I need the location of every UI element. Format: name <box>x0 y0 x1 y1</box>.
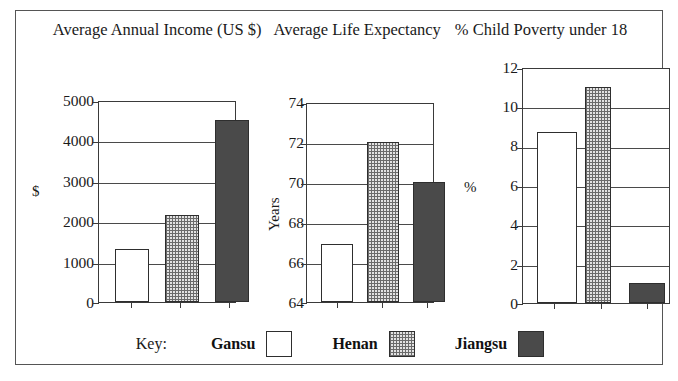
y-tick-10: 10 <box>503 99 519 114</box>
y-tick-4000: 4000 <box>63 133 94 148</box>
legend-entry-henan[interactable]: Henan <box>332 331 414 357</box>
y-tick-4: 4 <box>510 217 518 232</box>
bar-poverty-jiangsu[interactable] <box>629 283 665 303</box>
y-axis-label-income: $ <box>32 183 40 200</box>
legend-key-label: Key: <box>136 335 167 353</box>
legend-entry-gansu[interactable]: Gansu <box>211 331 292 357</box>
tick-64 <box>301 303 307 304</box>
chart-panel-income: $ 5000 4000 3000 2000 1000 0 <box>18 41 246 321</box>
bar-life-gansu[interactable] <box>321 244 353 302</box>
tick-2000 <box>93 223 99 224</box>
tick-74 <box>301 104 307 105</box>
y-tick-8: 8 <box>510 138 518 153</box>
chart-panel-life: Years 74 72 70 68 66 64 <box>244 41 434 321</box>
tick-66 <box>301 264 307 265</box>
plot-area-poverty <box>522 68 670 304</box>
bar-poverty-gansu[interactable] <box>537 132 577 303</box>
y-tick-72: 72 <box>289 135 305 150</box>
y-axis-label-poverty: % <box>464 179 477 196</box>
x-tick-jiangsu <box>229 302 230 308</box>
bar-income-henan[interactable] <box>165 215 199 302</box>
tick-0 <box>93 303 99 304</box>
tick-3000 <box>93 183 99 184</box>
tick-72 <box>301 144 307 145</box>
legend-label-henan: Henan <box>332 335 377 353</box>
bar-poverty-henan[interactable] <box>585 87 611 303</box>
x-tick-henan <box>382 302 383 308</box>
legend-swatch-henan <box>389 331 415 357</box>
x-tick-jiangsu <box>647 303 648 309</box>
legend-label-gansu: Gansu <box>211 335 255 353</box>
chart-title-income: Average Annual Income (US $) <box>53 20 262 40</box>
tick-4 <box>517 226 523 227</box>
charts-strip: $ 5000 4000 3000 2000 1000 0 <box>16 41 664 321</box>
y-tick-labels-poverty: 12 10 8 6 4 2 0 <box>484 41 518 321</box>
tick-2 <box>517 266 523 267</box>
legend-swatch-gansu <box>266 331 292 357</box>
y-tick-66: 66 <box>289 255 305 270</box>
tick-12 <box>517 69 523 70</box>
y-tick-74: 74 <box>289 95 305 110</box>
legend: Key: Gansu Henan Jiangsu <box>16 323 664 365</box>
y-tick-2000: 2000 <box>63 214 94 229</box>
tick-8 <box>517 148 523 149</box>
plot-area-income <box>98 101 236 303</box>
tick-10 <box>517 108 523 109</box>
y-tick-2: 2 <box>510 257 518 272</box>
x-tick-henan <box>601 303 602 309</box>
figure-frame: Average Annual Income (US $) Average Lif… <box>15 10 663 365</box>
y-tick-5000: 5000 <box>63 93 94 108</box>
y-tick-70: 70 <box>289 175 305 190</box>
y-tick-12: 12 <box>503 60 519 75</box>
legend-label-jiangsu: Jiangsu <box>455 335 507 353</box>
legend-swatch-jiangsu <box>518 331 544 357</box>
y-tick-6: 6 <box>510 178 518 193</box>
bar-life-henan[interactable] <box>367 142 399 302</box>
x-tick-henan <box>180 302 181 308</box>
bar-income-gansu[interactable] <box>115 249 149 302</box>
tick-4000 <box>93 142 99 143</box>
x-tick-gansu <box>337 302 338 308</box>
tick-68 <box>301 224 307 225</box>
plot-area-life <box>306 103 434 303</box>
panel-titles-row: Average Annual Income (US $) Average Lif… <box>16 17 664 43</box>
tick-0 <box>517 304 523 305</box>
y-tick-3000: 3000 <box>63 174 94 189</box>
chart-title-poverty: % Child Poverty under 18 <box>455 20 627 40</box>
chart-title-life: Average Life Expectancy <box>273 20 440 40</box>
x-tick-jiangsu <box>427 302 428 308</box>
y-tick-68: 68 <box>289 215 305 230</box>
y-tick-labels-life: 74 72 70 68 66 64 <box>270 41 304 321</box>
x-tick-gansu <box>554 303 555 309</box>
chart-panel-poverty: % 12 10 8 6 4 2 0 <box>434 41 662 321</box>
y-tick-labels-income: 5000 4000 3000 2000 1000 0 <box>46 41 94 321</box>
tick-1000 <box>93 264 99 265</box>
tick-70 <box>301 184 307 185</box>
tick-6 <box>517 187 523 188</box>
y-tick-1000: 1000 <box>63 255 94 270</box>
tick-5000 <box>93 102 99 103</box>
legend-entry-jiangsu[interactable]: Jiangsu <box>455 331 544 357</box>
x-tick-gansu <box>131 302 132 308</box>
